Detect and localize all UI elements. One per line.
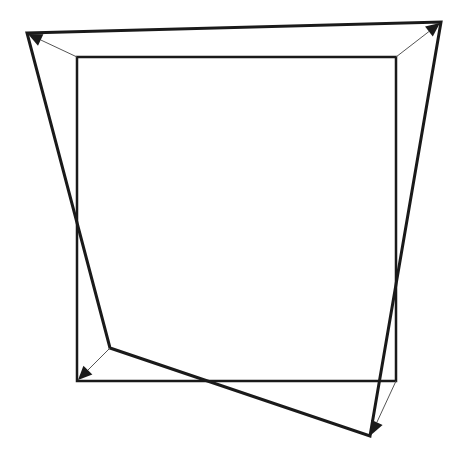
square-outline [77, 57, 396, 381]
arrow-bottom-left [78, 348, 110, 380]
arrow-shaft [41, 40, 77, 57]
inner-square [77, 57, 396, 381]
diagram-canvas [0, 0, 458, 459]
arrow-shaft [88, 348, 110, 370]
arrow-shaft [396, 32, 429, 57]
arrow-top-left [28, 34, 77, 57]
corner-arrows [28, 23, 440, 435]
arrow-top-right [396, 23, 440, 57]
